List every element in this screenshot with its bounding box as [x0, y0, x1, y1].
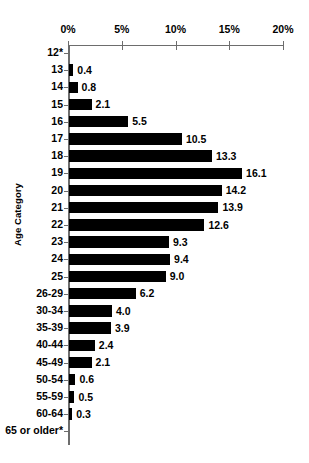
bar — [69, 185, 222, 196]
bar-value-label: 0.6 — [79, 373, 94, 385]
bar — [69, 64, 73, 75]
bar-value-label: 10.5 — [186, 133, 206, 145]
category-label: 45-49 — [36, 356, 63, 368]
bar — [69, 271, 166, 282]
category-label: 55-59 — [36, 390, 63, 402]
category-label: 25 — [51, 270, 63, 282]
chart-row: 152.1 — [0, 97, 309, 114]
chart-row: 2014.2 — [0, 183, 309, 200]
category-label: 26-29 — [36, 287, 63, 299]
chart-row: 30-344.0 — [0, 303, 309, 320]
bar-value-label: 0.3 — [76, 408, 91, 420]
chart-row: 130.4 — [0, 62, 309, 79]
category-label: 14 — [51, 80, 63, 92]
x-axis-tick-label: 10% — [165, 23, 186, 35]
bar-value-label: 3.9 — [115, 322, 130, 334]
bar — [69, 374, 75, 385]
category-label: 19 — [51, 166, 63, 178]
bar-value-label: 0.4 — [77, 64, 92, 76]
bar — [69, 305, 112, 316]
category-tick — [64, 53, 69, 54]
category-label: 18 — [51, 149, 63, 161]
bar — [69, 340, 95, 351]
x-axis-tick-label: 5% — [114, 23, 129, 35]
bar-value-label: 4.0 — [116, 305, 131, 317]
chart-row: 165.5 — [0, 114, 309, 131]
bar — [69, 202, 218, 213]
chart-row: 1710.5 — [0, 131, 309, 148]
category-label: 60-64 — [36, 407, 63, 419]
chart-row: 239.3 — [0, 234, 309, 251]
chart-row: 50-540.6 — [0, 372, 309, 389]
chart-row: 1916.1 — [0, 165, 309, 182]
bar-value-label: 2.1 — [96, 356, 111, 368]
category-label: 21 — [51, 201, 63, 213]
category-label: 12* — [47, 46, 63, 58]
category-tick — [64, 431, 69, 432]
bar — [69, 99, 92, 110]
category-label: 24 — [51, 252, 63, 264]
bar-value-label: 6.2 — [140, 287, 155, 299]
chart-row: 1813.3 — [0, 148, 309, 165]
bar — [69, 357, 92, 368]
chart-row: 60-640.3 — [0, 406, 309, 423]
category-label: 65 or older* — [5, 424, 63, 436]
bar — [69, 254, 170, 265]
chart-row: 35-393.9 — [0, 320, 309, 337]
category-label: 40-44 — [36, 338, 63, 350]
chart-row: 249.4 — [0, 251, 309, 268]
chart-row: 65 or older* — [0, 423, 309, 440]
chart-row: 55-590.5 — [0, 389, 309, 406]
bar — [69, 219, 204, 230]
x-axis-tick-label: 0% — [60, 23, 75, 35]
plot-area: 12*130.4140.8152.1165.51710.51813.31916.… — [0, 45, 309, 449]
bar — [69, 150, 212, 161]
category-label: 13 — [51, 63, 63, 75]
category-label: 50-54 — [36, 373, 63, 385]
chart-row: 26-296.2 — [0, 286, 309, 303]
x-axis-tick-label: 15% — [219, 23, 240, 35]
bar-value-label: 2.4 — [99, 339, 114, 351]
x-axis-tick-label: 20% — [272, 23, 293, 35]
bar-value-label: 12.6 — [208, 219, 228, 231]
bar — [69, 133, 182, 144]
category-label: 16 — [51, 115, 63, 127]
bar — [69, 168, 242, 179]
category-label: 20 — [51, 184, 63, 196]
chart-row: 12* — [0, 45, 309, 62]
chart-row: 140.8 — [0, 79, 309, 96]
category-label: 35-39 — [36, 321, 63, 333]
chart-row: 40-442.4 — [0, 337, 309, 354]
category-label: 30-34 — [36, 304, 63, 316]
chart-row: 259.0 — [0, 269, 309, 286]
bar — [69, 408, 72, 419]
bar — [69, 288, 136, 299]
bar-value-label: 9.4 — [174, 253, 189, 265]
bar — [69, 236, 169, 247]
bar-value-label: 5.5 — [132, 115, 147, 127]
bar-value-label: 2.1 — [96, 98, 111, 110]
bar — [69, 322, 111, 333]
bar-chart: Age Category 0%5%10%15%20% 12*130.4140.8… — [0, 0, 309, 463]
bar — [69, 391, 74, 402]
category-label: 15 — [51, 98, 63, 110]
bar — [69, 116, 128, 127]
category-label: 17 — [51, 132, 63, 144]
bar-value-label: 13.9 — [222, 201, 242, 213]
bar-value-label: 0.5 — [78, 391, 93, 403]
bar-value-label: 9.3 — [173, 236, 188, 248]
bar-value-label: 16.1 — [246, 167, 266, 179]
category-label: 23 — [51, 235, 63, 247]
bar-value-label: 9.0 — [170, 270, 185, 282]
bar-value-label: 0.8 — [82, 81, 97, 93]
chart-row: 45-492.1 — [0, 355, 309, 372]
category-label: 22 — [51, 218, 63, 230]
bar — [69, 82, 78, 93]
bar-value-label: 14.2 — [226, 184, 246, 196]
chart-row: 2212.6 — [0, 217, 309, 234]
bar-value-label: 13.3 — [216, 150, 236, 162]
chart-row: 2113.9 — [0, 200, 309, 217]
